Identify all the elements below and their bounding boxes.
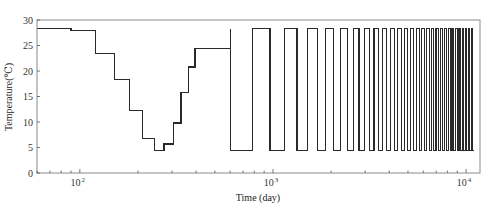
x-tick-label: 104	[457, 176, 472, 188]
y-tick-label: 10	[23, 117, 33, 128]
y-tick-label: 15	[23, 91, 33, 102]
temperature-series-line	[37, 29, 474, 151]
y-tick-label: 0	[28, 168, 33, 179]
y-axis-label: Temperature(℃)	[3, 63, 15, 131]
temperature-chart: 051015202530 102103104 Time (day) Temper…	[0, 0, 493, 211]
x-tick-label: 102	[71, 176, 86, 188]
y-tick-label: 30	[23, 15, 33, 26]
x-axis: 102103104	[37, 169, 472, 188]
y-tick-label: 5	[28, 142, 33, 153]
x-axis-label: Time (day)	[236, 192, 280, 204]
y-tick-label: 25	[23, 40, 33, 51]
plot-area	[37, 29, 474, 151]
y-tick-label: 20	[23, 66, 33, 77]
x-tick-label: 103	[264, 176, 279, 188]
